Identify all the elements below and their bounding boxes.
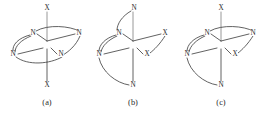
bond-center-back-right bbox=[47, 34, 75, 41]
arc-back-left-to-front-left-2 bbox=[15, 36, 31, 52]
arc-back-right-to-front-right bbox=[150, 36, 165, 53]
atom-label-equatorial-front-right: X bbox=[232, 50, 238, 58]
isomer-diagram-svg: XXNNNN(a)NNNXNX(b)XNNNNX(c) bbox=[0, 0, 267, 115]
atom-label-axial-top: X bbox=[218, 4, 224, 12]
atom-label-axial-bottom: N bbox=[130, 81, 136, 89]
bond-center-back-left bbox=[37, 34, 47, 41]
diagram-content: XXNNNN(a)NNNXNX(b)XNNNNX(c) bbox=[10, 4, 256, 107]
bond-center-back-left bbox=[123, 34, 133, 41]
atom-label-equatorial-front-right: X bbox=[144, 50, 150, 58]
arc-back-right-to-front-right bbox=[63, 36, 80, 55]
bond-center-front-right bbox=[51, 48, 57, 54]
arc-back-left-to-back-right bbox=[36, 26, 79, 31]
atom-label-equatorial-back-right: N bbox=[76, 29, 82, 37]
atom-label-axial-top: X bbox=[44, 4, 50, 12]
arc-back-left-to-front-left-2 bbox=[189, 36, 205, 52]
atom-label-axial-top: N bbox=[131, 4, 137, 12]
atom-label-equatorial-back-right: N bbox=[250, 29, 256, 37]
panel-caption-panel-a: (a) bbox=[42, 98, 52, 107]
panel-b: NNNXNX(b) bbox=[96, 4, 168, 107]
arc-axial-top-to-back-left bbox=[117, 11, 131, 30]
panel-caption-panel-b: (b) bbox=[128, 98, 138, 107]
bond-center-back-left bbox=[211, 34, 221, 41]
atom-label-axial-bottom: N bbox=[218, 81, 224, 89]
arc-back-right-to-front-right bbox=[238, 36, 253, 53]
atom-label-equatorial-back-left: N bbox=[116, 29, 122, 37]
bond-center-back-right bbox=[221, 34, 249, 41]
panel-a: XXNNNN(a) bbox=[10, 4, 82, 107]
figure-container: XXNNNN(a)NNNXNX(b)XNNNNX(c) bbox=[0, 0, 267, 115]
atom-label-equatorial-front-left: N bbox=[10, 50, 16, 58]
atom-label-equatorial-front-right: N bbox=[58, 50, 64, 58]
bond-center-front-left bbox=[104, 48, 129, 54]
bond-center-front-left bbox=[192, 48, 217, 54]
arc-front-left-to-front-right bbox=[16, 57, 62, 63]
arc-front-left-to-axial-bottom bbox=[99, 58, 129, 85]
atom-label-equatorial-back-right: X bbox=[162, 29, 168, 37]
atom-label-equatorial-back-left: N bbox=[204, 29, 210, 37]
bond-center-back-right bbox=[133, 34, 161, 41]
bond-center-front-right bbox=[225, 48, 231, 54]
panel-caption-panel-c: (c) bbox=[216, 98, 226, 107]
arc-front-left-to-axial-bottom bbox=[187, 58, 217, 85]
bond-center-front-right bbox=[137, 48, 143, 54]
atom-label-equatorial-back-left: N bbox=[30, 29, 36, 37]
atom-label-equatorial-front-left: N bbox=[96, 50, 102, 58]
bond-center-front-left bbox=[18, 48, 43, 54]
panel-c: XNNNNX(c) bbox=[184, 4, 256, 107]
atom-label-axial-bottom: X bbox=[44, 81, 50, 89]
arc-back-left-to-front-left-2 bbox=[101, 36, 117, 52]
atom-label-equatorial-front-left: N bbox=[184, 50, 190, 58]
arc-back-left-to-back-right bbox=[210, 26, 253, 31]
